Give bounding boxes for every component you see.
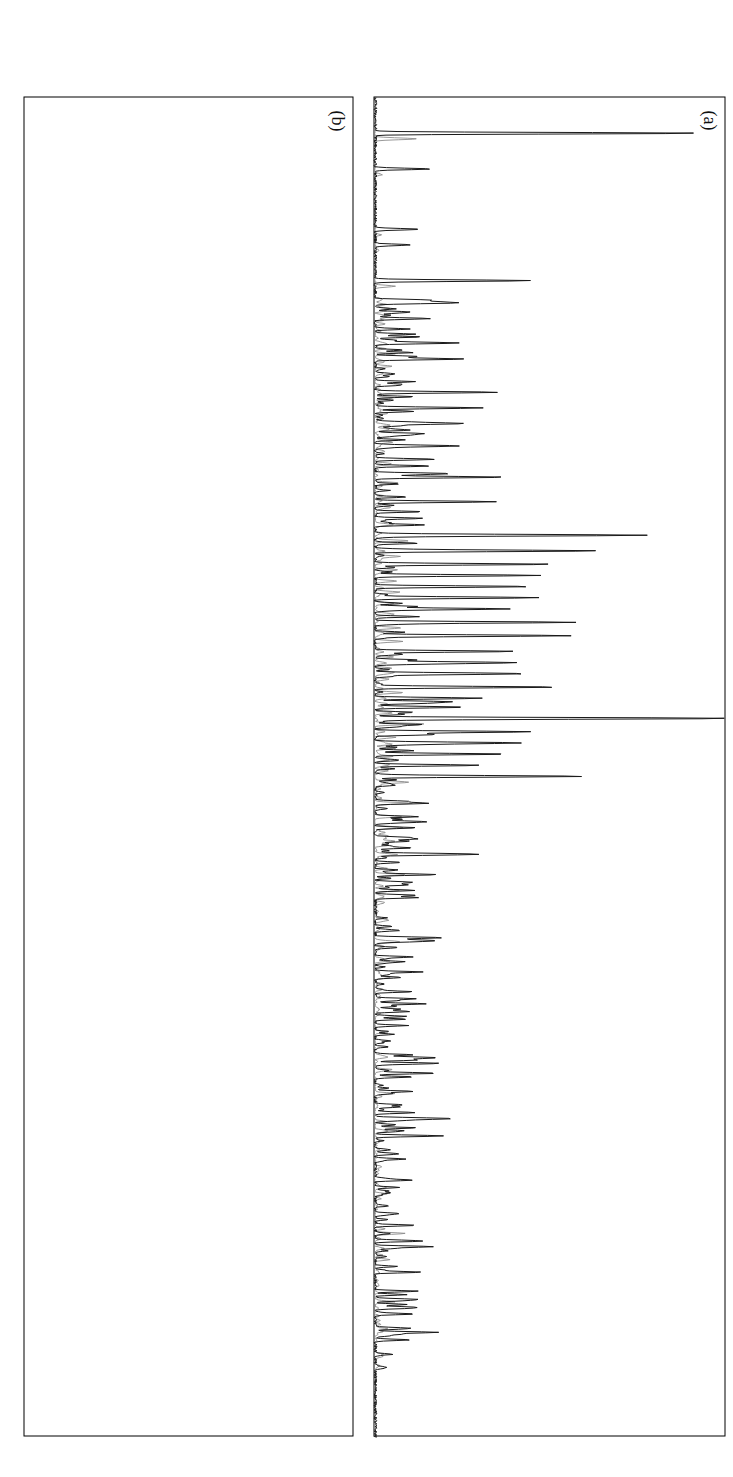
panel-a-traces (372, 97, 724, 1437)
panel-b-bubble-map (23, 96, 353, 1436)
panel-b-bubbles (22, 97, 352, 1437)
figure-root: (a) (b) (0, 0, 733, 1477)
panel-a-chromatogram (373, 96, 725, 1436)
panel-b-label: (b) (326, 110, 347, 131)
panel-a-label: (a) (698, 110, 719, 130)
rotated-figure: (a) (b) (0, 0, 733, 1477)
